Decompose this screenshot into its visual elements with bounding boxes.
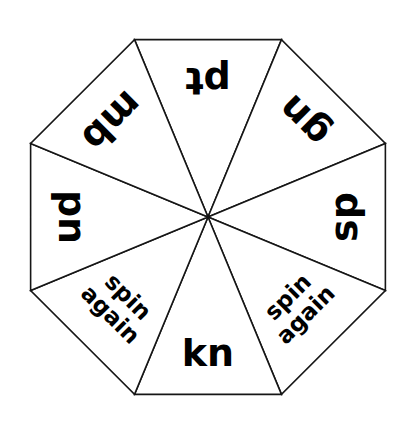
sector-label-text: sp xyxy=(322,192,366,242)
sector-label-pt: pt xyxy=(185,59,230,103)
sector-label-text: pt xyxy=(185,59,230,103)
sector-label-pn: pn xyxy=(50,190,94,244)
sector-label-text: kn xyxy=(182,331,234,375)
sector-label-text: pn xyxy=(50,190,94,244)
sector-label-sp: sp xyxy=(322,192,366,242)
sector-label-kn: kn xyxy=(182,331,234,375)
octagon-spinner[interactable]: ptgnspspinagainknspinagainpnmb xyxy=(0,0,414,433)
spinner-stage: ptgnspspinagainknspinagainpnmb xyxy=(0,0,414,433)
